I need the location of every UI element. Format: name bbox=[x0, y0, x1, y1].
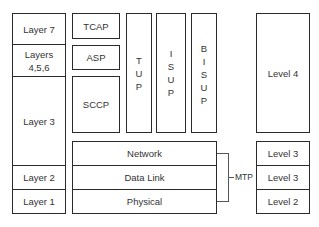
tup-letter: P bbox=[136, 80, 142, 93]
layer-3-box: Layer 3 bbox=[12, 76, 66, 166]
layers-456-box: Layers 4,5,6 bbox=[12, 44, 66, 77]
level-3-lower-label: Level 3 bbox=[268, 171, 299, 184]
bisup-letter: I bbox=[203, 55, 206, 68]
mtp-label: MTP bbox=[235, 172, 253, 182]
level-4-box: Level 4 bbox=[256, 13, 310, 133]
layers-456-label-line1: Layers bbox=[25, 48, 54, 61]
bisup-box: B I S U P bbox=[191, 13, 217, 133]
physical-box: Physical bbox=[72, 189, 217, 214]
mtp-bracket-tick bbox=[229, 177, 234, 178]
sccp-box: SCCP bbox=[72, 76, 120, 133]
layers-456-label-line2: 4,5,6 bbox=[28, 61, 49, 74]
tcap-box: TCAP bbox=[72, 13, 120, 39]
tup-box: T U P bbox=[126, 13, 152, 133]
level-2-box: Level 2 bbox=[256, 189, 310, 214]
level-3-upper-label: Level 3 bbox=[268, 147, 299, 160]
layer-7-box: Layer 7 bbox=[12, 13, 66, 45]
layer-7-label: Layer 7 bbox=[23, 23, 55, 36]
data-link-box: Data Link bbox=[72, 165, 217, 190]
tcap-label: TCAP bbox=[83, 20, 108, 33]
data-link-label: Data Link bbox=[124, 171, 164, 184]
tup-letter: T bbox=[136, 54, 142, 67]
level-3-upper-box: Level 3 bbox=[256, 141, 310, 166]
network-box: Network bbox=[72, 141, 217, 166]
asp-box: ASP bbox=[72, 45, 120, 70]
layer-1-box: Layer 1 bbox=[12, 189, 66, 214]
mtp-bracket-bottom bbox=[217, 201, 229, 202]
bisup-letter: P bbox=[201, 94, 207, 107]
network-label: Network bbox=[127, 147, 162, 160]
layer-3-label: Layer 3 bbox=[23, 115, 55, 128]
bisup-letter: B bbox=[201, 42, 207, 55]
isup-letter: U bbox=[168, 73, 175, 86]
isup-letter: S bbox=[168, 60, 174, 73]
tup-letter: U bbox=[136, 67, 143, 80]
level-3-lower-box: Level 3 bbox=[256, 165, 310, 190]
asp-label: ASP bbox=[86, 51, 105, 64]
level-4-label: Level 4 bbox=[268, 67, 299, 80]
isup-letter: I bbox=[170, 47, 173, 60]
level-2-label: Level 2 bbox=[268, 195, 299, 208]
physical-label: Physical bbox=[127, 195, 162, 208]
layer-2-box: Layer 2 bbox=[12, 165, 66, 190]
sccp-label: SCCP bbox=[83, 98, 109, 111]
layer-2-label: Layer 2 bbox=[23, 171, 55, 184]
layer-1-label: Layer 1 bbox=[23, 195, 55, 208]
isup-box: I S U P bbox=[156, 13, 186, 133]
isup-letter: P bbox=[168, 86, 174, 99]
bisup-letter: U bbox=[201, 81, 208, 94]
bisup-letter: S bbox=[201, 68, 207, 81]
